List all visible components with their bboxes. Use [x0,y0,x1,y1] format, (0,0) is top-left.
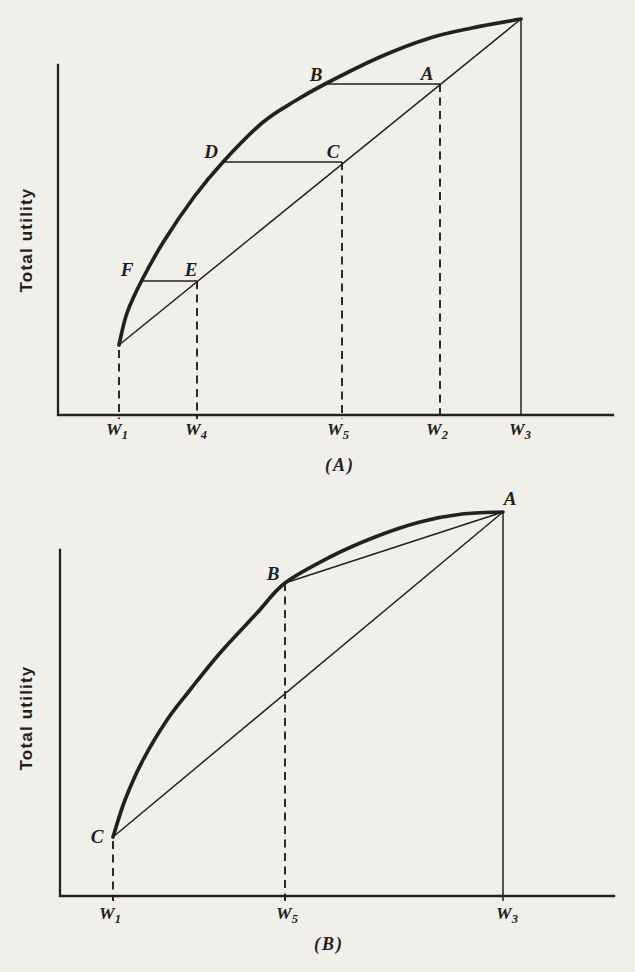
tick-subscript: 5 [343,428,349,442]
figure-canvas: Total utility B A D C F E W1 W4 W5 W2 W3… [0,0,635,972]
panel-b-caption: (B) [314,934,344,955]
panel-b-point-label-c: C [91,826,104,847]
panel-b-tick-w1: W1 [99,903,121,926]
tick-subscript: 3 [511,912,518,926]
tick-subscript: 1 [115,912,121,926]
panel-b-tick-w5: W5 [276,903,298,926]
tick-base: W [185,419,202,439]
tick-subscript: 4 [200,428,207,442]
panel-a-tick-w4: W4 [185,419,207,442]
panel-b-tick-w3: W3 [496,903,518,926]
panel-b-geometry [60,512,614,901]
tick-base: W [496,903,513,923]
tick-base: W [509,419,526,439]
panel-a-tick-w2: W2 [426,419,448,442]
tick-base: W [99,903,116,923]
panel-a-point-label-b: B [309,64,323,85]
panel-a-tick-w3: W3 [509,419,531,442]
tick-base: W [327,419,344,439]
tick-base: W [276,903,293,923]
panel-b-point-label-b: B [266,563,280,584]
panel-a-tick-w5: W5 [327,419,349,442]
panel-b-y-axis-label: Total utility [17,666,36,771]
panel-a-geometry [58,19,613,419]
tick-subscript: 5 [292,912,298,926]
tick-subscript: 1 [122,428,128,442]
panel-a-point-label-a: A [420,63,434,84]
panel-a-y-axis-label: Total utility [17,188,36,293]
panel-a-point-label-e: E [184,259,198,280]
tick-base: W [426,419,443,439]
panel-a-point-label-d: D [203,141,218,162]
panel-a-point-label-f: F [120,259,134,280]
panel-a-tick-w1: W1 [106,419,128,442]
tick-subscript: 3 [524,428,531,442]
panel-a-point-label-c: C [327,141,340,162]
tick-subscript: 2 [441,428,448,442]
panel-a-caption: (A) [325,455,355,476]
panel-b-point-label-a: A [503,488,517,509]
tick-base: W [106,419,123,439]
